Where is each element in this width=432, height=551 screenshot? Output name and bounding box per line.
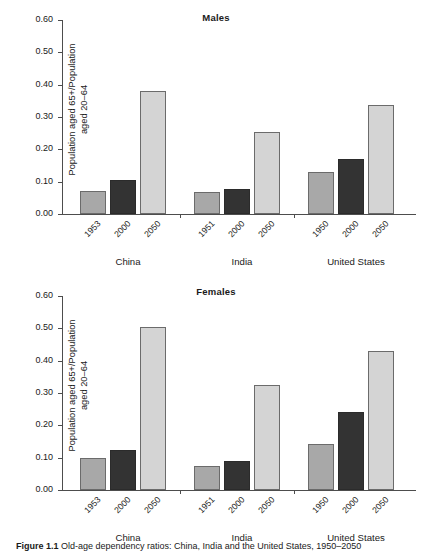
bar-group <box>194 296 290 490</box>
y-axis-tick: 0.50 <box>58 52 62 53</box>
bar <box>308 444 334 490</box>
x-axis-tick-label: 1950 <box>310 218 331 239</box>
x-axis-line <box>62 490 416 491</box>
x-axis-tick-label: 2050 <box>370 218 391 239</box>
x-axis-group-tick <box>180 214 181 218</box>
y-axis-line <box>62 20 63 214</box>
bar <box>308 172 334 214</box>
bar <box>140 327 166 490</box>
y-axis-tick-label: 0.00 <box>35 208 53 218</box>
y-axis-tick-label: 0.30 <box>35 111 53 121</box>
y-axis-tick-label: 0.10 <box>35 452 53 462</box>
x-axis-tick-label: 2000 <box>226 218 247 239</box>
plot-area-females: Population aged 65+/Population aged 20–6… <box>62 296 410 490</box>
bar <box>368 351 394 490</box>
y-axis-tick: 0.20 <box>58 149 62 150</box>
y-axis-tick-label: 0.60 <box>35 290 53 300</box>
y-axis-tick-label: 0.60 <box>35 14 53 24</box>
y-axis-tick: 0.10 <box>58 182 62 183</box>
x-axis-tick-label: 2050 <box>142 218 163 239</box>
y-axis-tick-label: 0.20 <box>35 419 53 429</box>
bar-group <box>80 20 176 214</box>
y-axis-tick: 0.60 <box>58 20 62 21</box>
x-axis-tick-label: 2000 <box>340 494 361 515</box>
bar <box>80 191 106 214</box>
y-axis-tick: 0.00 <box>58 214 62 215</box>
x-axis-group-label: China <box>64 256 192 267</box>
y-axis-tick-label: 0.00 <box>35 484 53 494</box>
bar-group <box>194 20 290 214</box>
x-axis-tick-label: 2000 <box>112 218 133 239</box>
bar <box>338 412 364 490</box>
figure-caption: Figure 1.1 Old-age dependency ratios: Ch… <box>16 541 426 551</box>
bar <box>80 458 106 490</box>
bar <box>254 385 280 490</box>
bar <box>140 91 166 215</box>
bar <box>194 466 220 490</box>
bar <box>194 192 220 214</box>
y-axis-tick: 0.60 <box>58 296 62 297</box>
y-axis-tick: 0.10 <box>58 458 62 459</box>
x-axis-tick-label: 1953 <box>82 218 103 239</box>
figure-caption-text: Old-age dependency ratios: China, India … <box>61 541 361 551</box>
x-axis-tick-label: 1953 <box>82 494 103 515</box>
bar <box>368 105 394 214</box>
x-axis-line <box>62 214 416 215</box>
bar <box>254 132 280 214</box>
y-axis-tick-label: 0.50 <box>35 322 53 332</box>
x-axis-tick-label: 2050 <box>256 494 277 515</box>
y-axis-tick: 0.30 <box>58 117 62 118</box>
y-axis-label-line1: Population aged 65+/Population <box>67 306 79 466</box>
bar-group <box>80 296 176 490</box>
x-axis-tick-label: 1951 <box>196 494 217 515</box>
y-axis-tick: 0.30 <box>58 393 62 394</box>
x-axis-tick-label: 1950 <box>310 494 331 515</box>
x-axis-group-label: India <box>178 256 306 267</box>
y-axis-line <box>62 296 63 490</box>
y-axis-tick-label: 0.30 <box>35 387 53 397</box>
bar <box>224 461 250 490</box>
x-axis-tick-label: 2050 <box>256 218 277 239</box>
figure-caption-label: Figure 1.1 <box>16 541 59 551</box>
x-axis-group-label: United States <box>292 256 420 267</box>
bar <box>224 189 250 214</box>
chart-panel-males: Males Population aged 65+/Population age… <box>0 0 432 275</box>
x-axis-tick-label: 2050 <box>370 494 391 515</box>
y-axis-tick: 0.50 <box>58 328 62 329</box>
x-axis-group-tick <box>294 490 295 494</box>
bar <box>110 450 136 490</box>
y-axis-tick: 0.40 <box>58 85 62 86</box>
bar-group <box>308 296 404 490</box>
plot-area-males: Population aged 65+/Population aged 20–6… <box>62 20 410 214</box>
x-axis-tick-label: 2000 <box>112 494 133 515</box>
y-axis-tick-label: 0.10 <box>35 176 53 186</box>
y-axis-label-line1: Population aged 65+/Population <box>67 30 79 190</box>
bar <box>110 180 136 214</box>
bar <box>338 159 364 214</box>
y-axis-tick-label: 0.50 <box>35 46 53 56</box>
x-axis-tick-label: 2050 <box>142 494 163 515</box>
y-axis-tick: 0.20 <box>58 425 62 426</box>
figure-root: Males Population aged 65+/Population age… <box>0 0 432 551</box>
y-axis-tick: 0.00 <box>58 490 62 491</box>
x-axis-group-tick <box>180 490 181 494</box>
y-axis-tick-label: 0.40 <box>35 79 53 89</box>
y-axis-tick: 0.40 <box>58 361 62 362</box>
chart-panel-females: Females Population aged 65+/Population a… <box>0 275 432 551</box>
x-axis-tick-label: 2000 <box>226 494 247 515</box>
bar-group <box>308 20 404 214</box>
x-axis-tick-label: 2000 <box>340 218 361 239</box>
x-axis-tick-label: 1951 <box>196 218 217 239</box>
y-axis-tick-label: 0.20 <box>35 143 53 153</box>
x-axis-group-tick <box>294 214 295 218</box>
y-axis-tick-label: 0.40 <box>35 355 53 365</box>
